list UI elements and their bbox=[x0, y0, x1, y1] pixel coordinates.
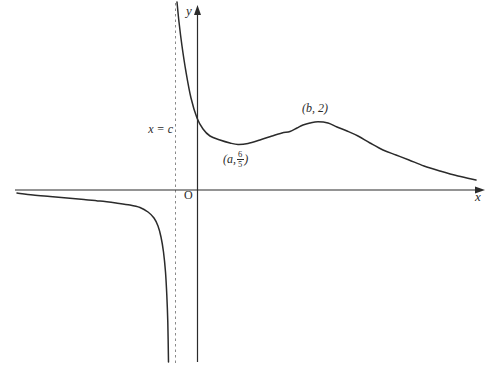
figure-svg bbox=[0, 0, 492, 374]
y-axis-arrow-icon bbox=[194, 5, 201, 15]
vertical-asymptote-label: x = c bbox=[131, 123, 173, 136]
local-min-suffix: ) bbox=[244, 153, 248, 166]
fraction-numerator: 6 bbox=[237, 150, 244, 159]
curve-right-branch bbox=[177, 2, 476, 180]
function-graph-figure: y x O x = c (a, 65) (b, 2) bbox=[0, 0, 492, 374]
fraction-denominator: 5 bbox=[237, 159, 244, 169]
local-min-point-label: (a, 65) bbox=[223, 150, 248, 170]
origin-label: O bbox=[184, 189, 193, 202]
fraction-six-fifths: 65 bbox=[237, 150, 244, 170]
local-max-point-label: (b, 2) bbox=[302, 102, 328, 115]
local-min-prefix: (a, bbox=[223, 153, 236, 166]
curve-left-branch bbox=[17, 193, 169, 362]
y-axis-label: y bbox=[186, 4, 192, 18]
x-axis-label: x bbox=[475, 190, 481, 204]
